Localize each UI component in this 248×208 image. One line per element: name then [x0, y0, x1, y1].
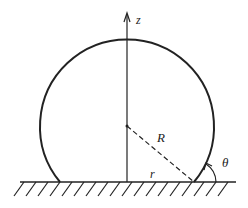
- base-radius-label: r: [150, 167, 155, 181]
- contact-angle-arc: [206, 164, 216, 182]
- z-axis-label: z: [135, 13, 141, 27]
- radius-label: R: [156, 130, 165, 145]
- ground-hatching: [14, 182, 228, 196]
- droplet-diagram: z R r θ: [0, 0, 248, 208]
- angle-label: θ: [222, 155, 229, 170]
